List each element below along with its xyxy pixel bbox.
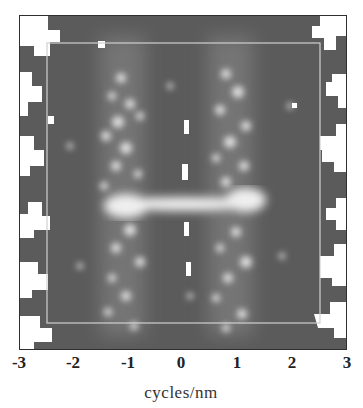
x-tick-label: 3: [343, 353, 352, 373]
x-tick-label: 0: [177, 353, 186, 373]
spectrum-figure: -3 -2 -1 0 1 2 3 cycles/nm: [0, 0, 363, 408]
x-tick-label: -1: [121, 353, 135, 373]
x-axis-title: cycles/nm: [144, 383, 217, 403]
x-tick-label: 1: [233, 353, 242, 373]
spectrum-heatmap: [20, 16, 347, 350]
x-tick-label: -2: [66, 353, 80, 373]
x-tick-label: 2: [288, 353, 297, 373]
spectrum-image: [19, 15, 347, 350]
x-tick-label: -3: [12, 353, 26, 373]
